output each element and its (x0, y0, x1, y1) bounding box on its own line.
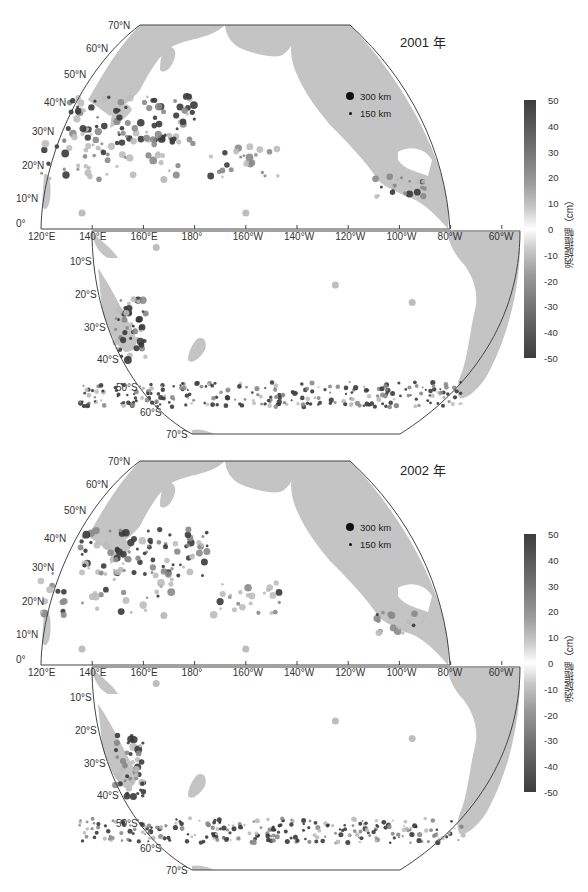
eddy-marker (146, 105, 152, 111)
eddy-marker (423, 817, 427, 821)
eddy-marker (375, 819, 378, 822)
lat-label: 0° (16, 219, 26, 229)
eddy-marker (454, 828, 456, 830)
eddy-marker (238, 825, 243, 830)
eddy-marker (137, 119, 145, 127)
land-antarctica (192, 429, 215, 434)
eddy-marker (120, 402, 122, 404)
eddy-marker (153, 244, 160, 251)
eddy-marker (290, 819, 293, 822)
eddy-marker (61, 150, 69, 158)
eddy-marker (376, 629, 383, 636)
eddy-marker (89, 541, 92, 544)
colorbar-tick-label: 10 (548, 632, 559, 643)
eddy-marker (303, 823, 305, 825)
lat-label: 20°N (22, 597, 44, 607)
eddy-marker (173, 99, 177, 103)
eddy-marker (408, 180, 411, 183)
eddy-marker (123, 569, 126, 572)
eddy-marker (190, 101, 198, 109)
lon-label: 120°W (335, 232, 365, 242)
eddy-marker (213, 837, 216, 840)
eddy-marker (439, 391, 443, 395)
eddy-marker (157, 527, 162, 532)
eddy-marker (272, 834, 276, 838)
eddy-marker (396, 832, 400, 836)
eddy-marker (253, 820, 256, 823)
eddy-marker (119, 139, 125, 145)
panel-title: 2001 年 (400, 32, 446, 51)
eddy-marker (156, 595, 159, 598)
eddy-marker (358, 836, 360, 838)
eddy-marker (444, 382, 449, 387)
eddy-marker (116, 114, 122, 120)
eddy-marker (345, 393, 347, 395)
eddy-marker (221, 583, 224, 586)
colorbar-gradient (524, 534, 536, 792)
eddy-marker (328, 384, 332, 388)
eddy-marker (263, 402, 266, 405)
eddy-marker (116, 742, 119, 745)
eddy-marker (118, 99, 125, 106)
eddy-marker (82, 385, 84, 387)
eddy-marker (201, 558, 208, 565)
colorbar-tick-label: -10 (544, 684, 558, 695)
eddy-marker (415, 398, 418, 401)
eddy-marker (115, 733, 120, 738)
eddy-marker (46, 162, 50, 166)
eddy-marker (174, 822, 177, 825)
lat-label: 20°S (75, 726, 97, 736)
eddy-marker (249, 159, 256, 166)
eddy-marker (114, 328, 117, 331)
eddy-marker (173, 541, 178, 546)
eddy-marker (332, 282, 339, 289)
eddy-marker (459, 392, 462, 395)
eddy-marker (128, 550, 131, 553)
eddy-marker (139, 326, 144, 331)
eddy-marker (381, 611, 384, 614)
eddy-marker (82, 406, 84, 408)
eddy-marker (79, 570, 85, 576)
eddy-marker (338, 832, 343, 837)
eddy-marker (404, 820, 408, 824)
lon-label: 120°W (335, 668, 365, 678)
eddy-marker (383, 826, 387, 830)
eddy-marker (211, 826, 215, 830)
eddy-marker (189, 554, 195, 560)
colorbar-tick-label: 50 (548, 95, 559, 106)
eddy-marker (419, 392, 423, 396)
eddy-marker (416, 180, 421, 185)
eddy-marker (141, 794, 144, 797)
eddy-marker (119, 831, 123, 835)
colorbar-tick-label: 20 (548, 172, 559, 183)
eddy-marker (230, 839, 232, 841)
eddy-marker (252, 399, 255, 402)
eddy-marker (376, 613, 379, 616)
eddy-marker (179, 821, 184, 826)
eddy-marker (210, 402, 215, 407)
eddy-marker (459, 825, 464, 830)
eddy-marker (132, 832, 135, 835)
eddy-marker (269, 395, 272, 398)
eddy-marker (66, 126, 71, 131)
eddy-marker (420, 186, 424, 190)
eddy-marker (300, 396, 305, 401)
eddy-marker (78, 545, 84, 551)
eddy-marker (175, 818, 177, 820)
eddy-marker (292, 391, 297, 396)
eddy-marker (221, 176, 224, 179)
eddy-marker (87, 393, 92, 398)
eddy-marker (398, 627, 401, 630)
eddy-marker (334, 401, 337, 404)
eddy-marker (143, 355, 147, 359)
eddy-marker (190, 835, 193, 838)
eddy-marker (355, 832, 360, 837)
lat-label: 40°N (44, 534, 66, 544)
colorbar-gradient (524, 100, 536, 358)
eddy-marker (124, 793, 131, 800)
land-alaska (225, 25, 300, 56)
eddy-marker (388, 612, 395, 619)
eddy-marker (104, 572, 108, 576)
land-alaska (225, 461, 300, 492)
eddy-marker (142, 310, 145, 313)
